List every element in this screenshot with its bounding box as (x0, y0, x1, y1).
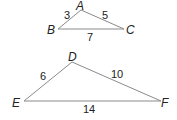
vertex-a-label: A (75, 0, 84, 13)
triangle-def: D E F 6 10 14 (12, 50, 169, 115)
side-de-length: 6 (40, 70, 46, 82)
vertex-f-label: F (161, 96, 169, 110)
side-ef-length: 14 (83, 103, 95, 115)
similar-triangles-diagram: A B C 3 5 7 D E F 6 10 14 (0, 0, 177, 120)
vertex-d-label: D (68, 50, 77, 64)
side-bc-length: 7 (87, 31, 93, 43)
side-ab-length: 3 (64, 9, 70, 21)
vertex-c-label: C (126, 23, 135, 37)
triangle-abc: A B C 3 5 7 (47, 0, 135, 43)
vertex-b-label: B (47, 23, 55, 37)
side-df-length: 10 (111, 68, 123, 80)
vertex-e-label: E (12, 96, 21, 110)
side-ac-length: 5 (102, 9, 108, 21)
